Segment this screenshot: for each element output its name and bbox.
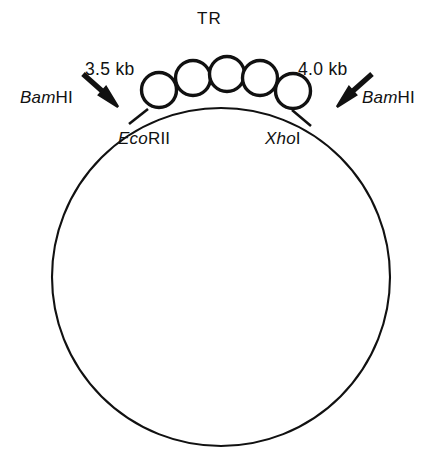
bamhi-right-label: BamHI	[362, 89, 415, 106]
bamhi-left-genus: Bam	[20, 88, 56, 107]
bamhi-right-genus: Bam	[362, 88, 398, 107]
bamhi-right-numeral: HI	[398, 88, 415, 107]
ecorii-site-tick	[129, 109, 148, 124]
xhoi-numeral: I	[296, 129, 301, 148]
plasmid-backbone-circle	[52, 108, 390, 446]
xhoi-site-tick	[292, 110, 311, 126]
tandem-repeat-circle-4	[243, 61, 278, 96]
tandem-repeat-circle-1	[142, 73, 177, 108]
ecorii-genus: Eco	[118, 129, 148, 148]
ecorii-numeral: RII	[148, 129, 170, 148]
plasmid-figure: TR 3.5 kb 4.0 kb BamHI BamHI EcoRII XhoI	[0, 0, 434, 470]
ecorii-label: EcoRII	[118, 130, 170, 147]
bamhi-left-numeral: HI	[56, 88, 73, 107]
plasmid-diagram-svg	[0, 0, 434, 470]
xhoi-genus: Xho	[265, 129, 296, 148]
tandem-repeat-chain	[142, 57, 311, 109]
bamhi-left-label: BamHI	[20, 89, 73, 106]
tandem-repeat-circle-3	[210, 57, 245, 92]
tandem-repeat-circle-2	[176, 61, 211, 96]
tandem-repeat-label: TR	[197, 10, 222, 27]
xhoi-label: XhoI	[265, 130, 301, 147]
fragment-size-right-label: 4.0 kb	[298, 61, 347, 79]
fragment-size-left-label: 3.5 kb	[85, 61, 134, 79]
